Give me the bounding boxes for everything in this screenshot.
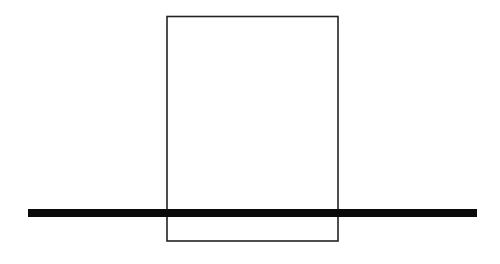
diagram-svg xyxy=(0,0,500,264)
diagram-canvas xyxy=(0,0,500,264)
rectangle-outline xyxy=(167,17,338,242)
